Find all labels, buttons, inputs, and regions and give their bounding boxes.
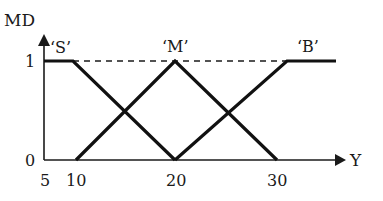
set-label-b: ‘B’ [297, 37, 319, 56]
x-axis-label: Y [349, 150, 362, 170]
y-tick-0: 0 [25, 151, 35, 170]
set-label-m: ‘M’ [162, 37, 189, 56]
x-axis-arrow-icon [335, 154, 346, 166]
series-b-line [175, 61, 336, 160]
set-label-s: ‘S’ [50, 38, 71, 57]
y-tick-1: 1 [25, 52, 35, 71]
x-tick-5: 5 [40, 171, 50, 190]
x-tick-10: 10 [66, 171, 86, 190]
y-axis-arrow-icon [38, 34, 50, 46]
series-m-line [76, 61, 277, 160]
x-tick-30: 30 [267, 171, 287, 190]
membership-function-diagram: MD Y ‘S’ ‘M’ ‘B’ 1 0 5 10 20 30 [0, 0, 383, 201]
y-axis-label: MD [4, 10, 35, 30]
x-tick-20: 20 [166, 171, 186, 190]
series-s-line [44, 61, 175, 160]
